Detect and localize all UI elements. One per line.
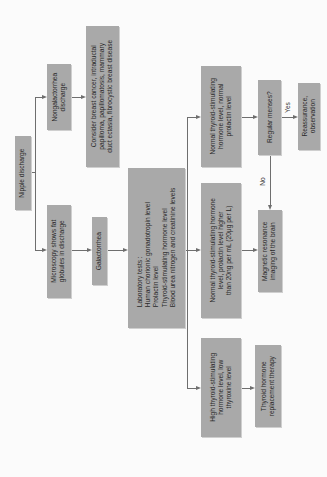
node-galactorrhea: Galactorrhea <box>92 217 107 285</box>
edge-label-yes: Yes <box>284 102 291 113</box>
connector-lab-vertical <box>187 117 188 389</box>
node-thyroid-replacement: Thyroid hormone replacement therapy <box>255 345 281 427</box>
node-label: Nongalactorrhea discharge <box>51 73 67 122</box>
connector-to-normal-normal <box>187 117 196 118</box>
node-mri-brain: Magnetic resonance imaging of the brain <box>258 210 282 292</box>
node-label: Galactorrhea <box>95 232 103 270</box>
node-label: Thyroid hormone replacement therapy <box>260 356 276 416</box>
connector-root-vertical <box>35 97 36 251</box>
node-label: Normal thyroid-stimulating hormone level… <box>209 78 234 155</box>
node-normal-tsh-normal-prolactin: Normal thyroid-stimulating hormone level… <box>201 66 241 167</box>
connector-to-mri <box>241 250 253 251</box>
node-label: High thyroid-stimulating hormone level, … <box>209 353 234 422</box>
node-consider-breast-cancer: Consider breast cancer, intraductal papi… <box>86 26 119 167</box>
connector-menses-no <box>270 155 271 205</box>
node-normal-tsh-high-prolactin: Normal thyroid-stimulating hormone level… <box>201 183 241 318</box>
node-label: Magnetic resonance imaging of the brain <box>262 221 278 280</box>
node-high-tsh: High thyroid-stimulating hormone level, … <box>201 338 241 437</box>
node-label: Nipple discharge <box>19 148 27 197</box>
node-reassurance: Reassurance, observation <box>298 83 320 150</box>
node-regular-menses: Regular menses? <box>258 80 281 155</box>
connector-to-menses <box>241 117 253 118</box>
connector-to-thyroid-therapy <box>241 388 250 389</box>
node-nipple-discharge: Nipple discharge <box>15 136 31 210</box>
edge-label-no: No <box>259 177 266 185</box>
node-label: Regular menses? <box>265 92 273 144</box>
node-nongalactorrhea-discharge: Nongalactorrhea discharge <box>47 64 71 130</box>
node-label: Reassurance, observation <box>301 96 317 137</box>
connector-nongal-to-consider <box>71 97 81 98</box>
connector-galac-to-lab <box>107 250 123 251</box>
connector-micro-to-galac <box>71 250 87 251</box>
node-label: Laboratory tests : Human chorionic gonad… <box>136 188 177 308</box>
connector-to-high-tsh <box>187 388 196 389</box>
node-microscopy: Microscopy shows fat globules in dischar… <box>47 205 71 298</box>
node-label: Microscopy shows fat globules in dischar… <box>51 220 67 283</box>
connector-to-normal-high <box>187 250 196 251</box>
connector-menses-yes <box>281 117 293 118</box>
node-laboratory-tests: Laboratory tests : Human chorionic gonad… <box>128 168 185 328</box>
node-label: Normal thyroid-stimulating hormone level… <box>209 198 234 302</box>
node-label: Consider breast cancer, intraductal papi… <box>90 40 115 153</box>
